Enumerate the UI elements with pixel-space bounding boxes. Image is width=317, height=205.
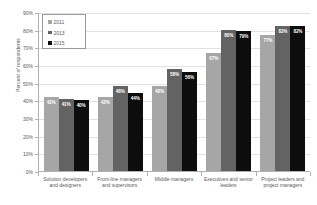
bar-2013: 80% <box>221 30 236 171</box>
bar-value-label: 42% <box>47 100 56 105</box>
x-axis-label-1: Front-line managers and supervisors <box>92 176 146 189</box>
y-axis-tick-label: 60% <box>23 63 33 69</box>
x-axis-label-2: Middle managers <box>147 176 201 189</box>
x-axis-label-0: Solution developers and designers <box>38 176 92 189</box>
y-axis-tick <box>35 154 38 155</box>
bar-2015: 56% <box>182 72 197 171</box>
x-axis-separator <box>310 172 311 176</box>
y-axis-tick <box>35 48 38 49</box>
bar-group: 67%80%79% <box>202 13 256 171</box>
bar-2015: 44% <box>128 93 143 171</box>
y-axis-tick-label: 10% <box>23 151 33 157</box>
bar-chart: Percent of respondents 90%80%70%60%50%40… <box>0 0 317 205</box>
legend-swatch-icon-2015 <box>48 41 52 45</box>
y-axis-tick <box>35 84 38 85</box>
y-axis-tick <box>35 13 38 14</box>
bar-2011: 67% <box>206 53 221 171</box>
y-axis-title: Percent of respondents <box>15 10 21 120</box>
y-axis-tick-label: 90% <box>23 10 33 16</box>
y-axis-tick <box>35 137 38 138</box>
legend-label-2011: 2011 <box>54 19 65 25</box>
y-axis-tick-label: 80% <box>23 28 33 34</box>
y-axis-tick <box>35 101 38 102</box>
bar-group: 48%58%56% <box>147 13 201 171</box>
bar-value-label: 82% <box>278 29 287 34</box>
bar-value-label: 48% <box>155 89 164 94</box>
bar-2011: 77% <box>260 35 275 171</box>
bar-value-label: 82% <box>293 29 302 34</box>
bar-2015: 79% <box>236 31 251 171</box>
bar-value-label: 42% <box>101 100 110 105</box>
y-axis-tick <box>35 119 38 120</box>
y-axis-tick-label: 0% <box>26 169 33 175</box>
x-axis-category-labels: Solution developers and designersFront-l… <box>38 176 310 189</box>
legend-label-2015: 2015 <box>54 40 65 46</box>
bar-group: 42%48%44% <box>93 13 147 171</box>
bar-value-label: 77% <box>263 38 272 43</box>
bar-value-label: 56% <box>185 75 194 80</box>
bar-value-label: 41% <box>62 102 71 107</box>
bar-2011: 48% <box>152 86 167 171</box>
y-axis-tick-label: 70% <box>23 45 33 51</box>
legend-item-2013: 2013 <box>48 30 85 36</box>
x-axis-label-3: Executives and senior leaders <box>201 176 255 189</box>
bar-value-label: 40% <box>77 103 86 108</box>
bar-value-label: 80% <box>224 33 233 38</box>
legend-swatch-icon-2013 <box>48 31 52 35</box>
bar-2013: 48% <box>113 86 128 171</box>
bar-2013: 41% <box>59 99 74 171</box>
legend-item-2011: 2011 <box>48 19 85 25</box>
bar-value-label: 58% <box>170 72 179 77</box>
bar-value-label: 44% <box>131 96 140 101</box>
x-axis-line <box>38 171 310 172</box>
y-axis-tick-label: 40% <box>23 98 33 104</box>
y-axis-tick <box>35 66 38 67</box>
bar-2011: 42% <box>44 97 59 171</box>
bar-2011: 42% <box>98 97 113 171</box>
bar-2013: 58% <box>167 69 182 171</box>
legend-swatch-icon-2011 <box>48 20 52 24</box>
y-axis-tick-label: 20% <box>23 134 33 140</box>
y-axis-tick <box>35 31 38 32</box>
legend: 2011 2013 2015 <box>42 14 86 49</box>
bar-2015: 82% <box>290 26 305 171</box>
legend-label-2013: 2013 <box>54 30 65 36</box>
bar-group: 77%82%82% <box>256 13 310 171</box>
legend-item-2015: 2015 <box>48 40 85 46</box>
x-axis-label-4: Project leaders and project managers <box>256 176 310 189</box>
bar-value-label: 79% <box>239 34 248 39</box>
y-axis-tick-label: 30% <box>23 116 33 122</box>
bar-2013: 82% <box>275 26 290 171</box>
bar-value-label: 48% <box>116 89 125 94</box>
bar-2015: 40% <box>74 100 89 171</box>
y-axis-tick-label: 50% <box>23 81 33 87</box>
bar-value-label: 67% <box>209 56 218 61</box>
